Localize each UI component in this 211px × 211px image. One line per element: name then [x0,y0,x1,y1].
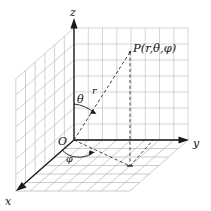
floor-projection-line [74,140,130,166]
point-p-label: P(r,θ,φ) [132,41,176,55]
coordinate-system-svg: z y x O r θ φ P(r,θ,φ) [0,0,211,211]
z-axis-arrowhead [70,18,77,29]
x-axis-label: x [5,195,12,208]
theta-label: θ [77,93,84,106]
y-axis-arrowhead [179,136,190,143]
y-axis [74,136,189,143]
origin-label: O [58,135,67,148]
foot-to-yaxis-line [130,140,153,166]
xz-plane-grid [16,28,74,191]
y-axis-label: y [192,137,200,150]
xy-plane-grid [16,140,188,191]
z-axis-label: z [69,6,76,19]
z-axis [70,18,77,140]
phi-arc-arrowhead [89,151,95,156]
radius-label: r [92,85,98,96]
phi-label: φ [66,153,73,164]
point-p-dot [129,51,131,53]
spherical-coordinates-figure: z y x O r θ φ P(r,θ,φ) [0,0,211,211]
